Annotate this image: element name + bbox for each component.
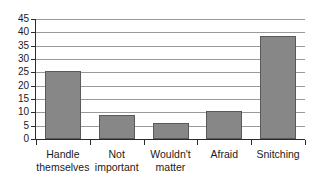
y-axis-tick-label: 20 (0, 81, 29, 91)
y-axis-tick-label-text: 5 (7, 121, 29, 131)
x-axis-category-label-line: matter (144, 161, 198, 174)
gridline (36, 19, 305, 20)
bar (153, 123, 189, 139)
x-axis-category-label: Snitching (251, 148, 305, 161)
x-axis-tick-mark (36, 140, 37, 145)
y-axis-tick-label-text: 40 (7, 27, 29, 37)
y-axis-tick-label: 35 (0, 41, 29, 51)
y-axis-tick-label: 10 (0, 107, 29, 117)
y-axis-tick-label: 5 (0, 121, 29, 131)
gridline (36, 32, 305, 33)
x-axis-tick-mark (305, 140, 306, 145)
x-axis-category-label: Handlethemselves (36, 148, 90, 174)
x-axis-category-label-line: Afraid (197, 148, 251, 161)
bar (206, 111, 242, 139)
y-axis-tick-label-text: 30 (7, 54, 29, 64)
y-axis-tick-label-text: 15 (7, 94, 29, 104)
x-axis-category-label-line: Handle (36, 148, 90, 161)
x-axis-category-label-line: Not (90, 148, 144, 161)
x-axis-category-label: Notimportant (90, 148, 144, 174)
x-axis-category-label-line: themselves (36, 161, 90, 174)
y-axis-tick-label: 15 (0, 94, 29, 104)
x-axis-line (36, 139, 305, 140)
y-axis-tick-label-text: 45 (7, 14, 29, 24)
x-axis-tick-mark (90, 140, 91, 145)
y-axis-tick-label-text: 35 (7, 41, 29, 51)
x-axis-labels: HandlethemselvesNotimportantWouldn'tmatt… (36, 148, 305, 182)
y-axis-tick-label-text: 10 (7, 107, 29, 117)
x-axis-category-label-line: important (90, 161, 144, 174)
y-axis-line (35, 19, 36, 140)
x-axis-tick-mark (197, 140, 198, 145)
y-axis-tick-label: 30 (0, 54, 29, 64)
y-axis-tick-label-text: 25 (7, 67, 29, 77)
y-axis-tick-label: 40 (0, 27, 29, 37)
bar (260, 36, 296, 139)
x-axis-tick-mark (144, 140, 145, 145)
y-axis-tick-label: 25 (0, 67, 29, 77)
y-axis-tick-label: 45 (0, 14, 29, 24)
x-axis-category-label: Afraid (197, 148, 251, 161)
x-axis-category-label-line: Wouldn't (144, 148, 198, 161)
bar (99, 115, 135, 139)
x-axis-category-label-line: Snitching (251, 148, 305, 161)
plot-area (36, 19, 305, 139)
y-axis-tick-label-text: 20 (7, 81, 29, 91)
y-axis-tick-label-text: 0 (7, 134, 29, 144)
bar (45, 71, 81, 139)
x-axis-tick-mark (251, 140, 252, 145)
y-axis-tick-label: 0 (0, 134, 29, 144)
bar-chart: 051015202530354045 HandlethemselvesNotim… (0, 0, 312, 186)
x-axis-category-label: Wouldn'tmatter (144, 148, 198, 174)
